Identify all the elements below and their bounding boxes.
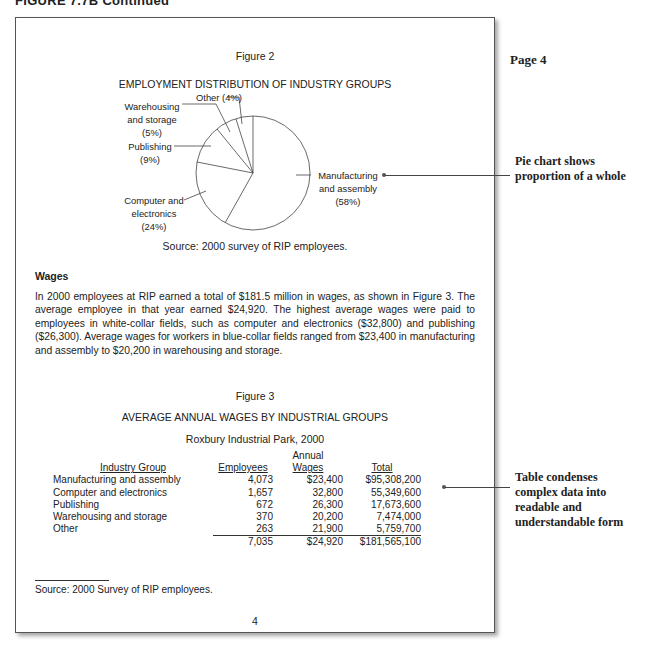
cell-wages: 21,900 <box>273 523 343 536</box>
pie-label-text: (5%) <box>122 126 182 139</box>
table-header-row: Industry Group Employees Wages Total <box>53 462 421 474</box>
column-header-group: Industry Group <box>53 462 213 474</box>
pie-label-warehousing: Warehousing and storage (5%) <box>122 100 182 139</box>
page-number: 4 <box>16 615 494 627</box>
table-header-row-top: Annual <box>53 450 421 462</box>
table-row: Other 263 21,900 5,759,700 <box>53 523 421 536</box>
total-employees: 7,035 <box>213 536 273 549</box>
cell-wages: 26,300 <box>273 499 343 511</box>
column-header-wages: Wages <box>273 462 343 474</box>
note-text: readable and <box>515 500 623 515</box>
total-amount: $181,565,100 <box>343 536 421 549</box>
pie-label-text: (24%) <box>123 220 185 233</box>
document-page: Figure 2 EMPLOYMENT DISTRIBUTION OF INDU… <box>15 17 495 633</box>
cell-group: Other <box>53 523 213 536</box>
pie-label-computer: Computer and electronics (24%) <box>123 194 185 233</box>
cell-total: 17,673,600 <box>343 499 421 511</box>
cell-employees: 4,073 <box>213 474 273 486</box>
pie-label-text: Manufacturing <box>312 169 384 182</box>
callout-line-pie <box>385 175 510 176</box>
cell-group: Warehousing and storage <box>53 511 213 523</box>
note-text: proportion of a whole <box>515 169 626 184</box>
pie-label-text: (58%) <box>312 195 384 208</box>
pie-label-text: Computer and <box>123 194 185 207</box>
cell-employees: 263 <box>213 523 273 536</box>
pie-label-manufacturing: Manufacturing and assembly (58%) <box>312 169 384 208</box>
figure3-subtitle: Roxbury Industrial Park, 2000 <box>16 433 494 445</box>
pie-label-text: electronics <box>123 207 185 220</box>
figure3-source: Source: 2000 Survey of RIP employees. <box>35 584 213 595</box>
note-text: complex data into <box>515 485 623 500</box>
table-row: Warehousing and storage 370 20,200 7,474… <box>53 511 421 523</box>
wages-heading: Wages <box>35 270 68 282</box>
sidebar-note-pie: Pie chart shows proportion of a whole <box>515 154 626 184</box>
cell-total: $95,308,200 <box>343 474 421 486</box>
cell-total: 55,349,600 <box>343 487 421 499</box>
cell-total: 7,474,000 <box>343 511 421 523</box>
total-wages: $24,920 <box>273 536 343 549</box>
table-row: Publishing 672 26,300 17,673,600 <box>53 499 421 511</box>
column-header-total: Total <box>343 462 421 474</box>
cell-total: 5,759,700 <box>343 523 421 536</box>
cell-employees: 1,657 <box>213 487 273 499</box>
callout-line-table <box>445 487 510 488</box>
figure3-title: AVERAGE ANNUAL WAGES BY INDUSTRIAL GROUP… <box>16 411 494 423</box>
note-text: Table condenses <box>515 470 623 485</box>
pie-label-text: and storage <box>122 113 182 126</box>
wages-paragraph: In 2000 employees at RIP earned a total … <box>35 290 475 357</box>
column-header-wages-top: Annual <box>273 450 343 462</box>
pie-label-publishing: Publishing (9%) <box>124 140 176 166</box>
figure3-label: Figure 3 <box>16 390 494 402</box>
cell-employees: 672 <box>213 499 273 511</box>
source-divider <box>35 580 109 581</box>
cell-group: Publishing <box>53 499 213 511</box>
sidebar-note-table: Table condenses complex data into readab… <box>515 470 623 530</box>
note-text: understandable form <box>515 515 623 530</box>
pie-chart <box>16 18 494 258</box>
pie-label-text: Warehousing <box>122 100 182 113</box>
cell-wages: $23,400 <box>273 474 343 486</box>
note-text: Pie chart shows <box>515 154 626 169</box>
cell-employees: 370 <box>213 511 273 523</box>
figure2-source: Source: 2000 survey of RIP employees. <box>16 240 494 252</box>
sidebar-page-label: Page 4 <box>510 52 546 68</box>
cell-wages: 32,800 <box>273 487 343 499</box>
table-row: Computer and electronics 1,657 32,800 55… <box>53 487 421 499</box>
column-header-employees: Employees <box>213 462 273 474</box>
pie-label-text: and assembly <box>312 182 384 195</box>
pie-label-text: Publishing <box>124 140 176 153</box>
wages-table: Annual Industry Group Employees Wages To… <box>53 450 421 549</box>
pie-label-other: Other (4%) <box>196 91 242 104</box>
cell-wages: 20,200 <box>273 511 343 523</box>
table-totals-row: 7,035 $24,920 $181,565,100 <box>53 536 421 549</box>
table-row: Manufacturing and assembly 4,073 $23,400… <box>53 474 421 486</box>
cell-group: Manufacturing and assembly <box>53 474 213 486</box>
figure-header: FIGURE 7.7B Continued <box>15 0 169 8</box>
pie-label-text: (9%) <box>124 153 176 166</box>
cell-group: Computer and electronics <box>53 487 213 499</box>
